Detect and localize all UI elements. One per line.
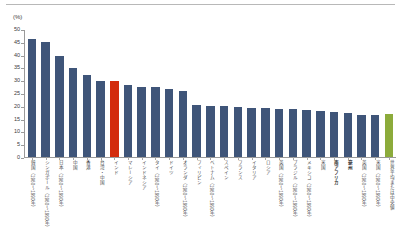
bar[interactable]	[220, 106, 229, 157]
bar[interactable]	[165, 89, 174, 157]
y-axis-tick-label: 30	[14, 78, 20, 84]
bar-slot	[39, 30, 53, 157]
bar[interactable]	[96, 81, 105, 157]
x-axis-category-label: フィリピン	[195, 160, 200, 185]
x-axis-category-label: 日本（1960～1990年）	[57, 160, 62, 210]
x-axis-category-label: 米国（1960～1990年）	[374, 160, 379, 210]
bar[interactable]	[206, 106, 215, 157]
x-axis-label-slot: フィリピン	[190, 160, 204, 246]
y-axis-tick	[21, 107, 24, 108]
y-axis-tick-label: 35	[14, 66, 20, 72]
x-axis-category-label: 世界平均または中央値	[388, 160, 393, 210]
bar-slot	[341, 30, 355, 157]
bar[interactable]	[234, 107, 243, 157]
bar-slot	[368, 30, 382, 157]
bar[interactable]	[69, 68, 78, 157]
bar-slot	[327, 30, 341, 157]
bar-slot	[382, 30, 396, 157]
x-axis-category-label: ベトナム（1960～1990年）	[209, 160, 214, 220]
x-axis-label-slot: 日本（1960～1990年）	[53, 160, 67, 246]
x-axis-label-slot: マレーシア	[121, 160, 135, 246]
x-axis-label-slot: ドイツ	[163, 160, 177, 246]
x-axis-label-slot: スペイン	[218, 160, 232, 246]
x-axis-category-label: タイ（1960～1990年）	[154, 160, 159, 210]
bar-slot	[286, 30, 300, 157]
x-axis-label-slot: シンガポール（1960～1990年）	[39, 160, 53, 246]
x-axis-label-slot: インド	[108, 160, 122, 246]
bar[interactable]	[247, 108, 256, 157]
y-axis-tick	[21, 56, 24, 57]
bar[interactable]	[275, 109, 284, 157]
bar-slot	[149, 30, 163, 157]
x-axis-category-label: 南アフリカ	[333, 160, 338, 185]
bar[interactable]	[110, 81, 119, 157]
y-axis-tick-label: 50	[14, 27, 20, 33]
bar[interactable]	[371, 115, 380, 157]
y-axis-tick	[21, 145, 24, 146]
bar[interactable]	[83, 75, 92, 157]
bar[interactable]	[344, 113, 353, 157]
x-axis-label-slot: 香港	[80, 160, 94, 246]
bar[interactable]	[124, 85, 133, 157]
bar[interactable]	[179, 91, 188, 157]
bar[interactable]	[385, 114, 394, 157]
y-axis-tick	[21, 68, 24, 69]
y-axis-tick	[21, 158, 24, 159]
bar[interactable]	[192, 105, 201, 157]
bar[interactable]	[28, 39, 37, 157]
bar[interactable]	[316, 111, 325, 157]
x-axis-category-label: シンガポール（1960～1990年）	[43, 160, 48, 230]
x-axis-label-slot: フランス	[232, 160, 246, 246]
x-axis-label-slot: 英国（1960～1990年）	[356, 160, 370, 246]
bar[interactable]	[302, 110, 311, 157]
x-axis-category-label: 台湾・中国	[98, 160, 103, 185]
x-axis-label-slot: 英国（1960～1990年）	[273, 160, 287, 246]
y-axis-tick	[21, 30, 24, 31]
bar-slot	[80, 30, 94, 157]
y-axis-tick	[21, 43, 24, 44]
x-axis-category-labels: 韓国（1960～1990年）シンガポール（1960～1990年）日本（1960～…	[25, 160, 397, 246]
bar-slot	[300, 30, 314, 157]
bar[interactable]	[330, 112, 339, 157]
x-axis-label-slot: 中国	[66, 160, 80, 246]
y-axis-tick-label: 10	[14, 130, 20, 136]
x-axis-label-slot: ブラジル（1960～1990年）	[287, 160, 301, 246]
x-axis-category-label: フランス	[236, 160, 241, 180]
bar-slot	[66, 30, 80, 157]
x-axis-category-label: メキシコ（1960～1990年）	[305, 160, 310, 220]
bar[interactable]	[357, 115, 366, 157]
x-axis-label-slot: 豪州	[342, 160, 356, 246]
x-axis-label-slot: 米国	[314, 160, 328, 246]
x-axis-label-slot: ロシア	[259, 160, 273, 246]
x-axis-category-label: 香港	[85, 160, 90, 170]
bar-slot	[176, 30, 190, 157]
x-axis-category-label: スペイン	[222, 160, 227, 180]
bar-slot	[25, 30, 39, 157]
x-axis-category-label: 英国（1960～1990年）	[360, 160, 365, 210]
x-axis-category-label: ドイツ	[167, 160, 172, 175]
x-axis-category-label: 米国	[319, 160, 324, 170]
bar[interactable]	[41, 42, 50, 157]
y-axis-tick-label: 0	[17, 155, 20, 161]
x-axis-category-label: インド	[112, 160, 117, 175]
bar[interactable]	[137, 87, 146, 157]
bar[interactable]	[289, 109, 298, 157]
x-axis-label-slot: タイ（1960～1990年）	[149, 160, 163, 246]
bar[interactable]	[151, 87, 160, 157]
x-axis-label-slot: 台湾・中国	[94, 160, 108, 246]
x-axis-label-slot: オランダ（1960～1990年）	[177, 160, 191, 246]
bar[interactable]	[261, 108, 270, 157]
bar-slot	[52, 30, 66, 157]
x-axis-category-label: オランダ（1960～1990年）	[181, 160, 186, 220]
x-axis-label-slot: インドネシア	[135, 160, 149, 246]
x-axis-category-label: 韓国（1960～1990年）	[29, 160, 34, 210]
bar-slot	[313, 30, 327, 157]
bar[interactable]	[55, 56, 64, 157]
bar-slot	[245, 30, 259, 157]
x-axis-category-label: インドネシア	[140, 160, 145, 190]
bar-slot	[121, 30, 135, 157]
x-axis-category-label: マレーシア	[126, 160, 131, 185]
x-axis-label-slot: メキシコ（1960～1990年）	[301, 160, 315, 246]
x-axis-category-label: 中国	[71, 160, 76, 170]
x-axis-category-label: ブラジル（1960～1990年）	[291, 160, 296, 220]
